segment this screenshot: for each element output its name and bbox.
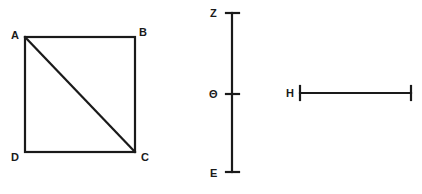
horizontal-segment-h: H: [286, 86, 411, 100]
vertex-label-c: C: [141, 151, 149, 163]
vertex-label-b: B: [139, 26, 147, 38]
geometry-diagram: A B C D Z Θ E H: [0, 0, 422, 194]
label-h: H: [286, 87, 294, 99]
vertex-label-a: A: [11, 29, 19, 41]
label-z: Z: [210, 7, 217, 19]
label-e: E: [210, 167, 217, 179]
diagonal-ac: [25, 37, 135, 152]
label-theta: Θ: [209, 88, 218, 100]
square-abcd: A B C D: [11, 26, 149, 163]
vertex-label-d: D: [11, 151, 19, 163]
vertical-segment-ze: Z Θ E: [209, 7, 239, 179]
